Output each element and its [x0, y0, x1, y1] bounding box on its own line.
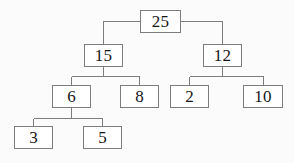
tree-node-6[interactable]: 6	[52, 85, 91, 108]
tree-node-label: 15	[95, 47, 112, 64]
edge-25-15	[104, 22, 141, 45]
tree-node-label: 10	[254, 88, 271, 105]
tree-node-2[interactable]: 2	[170, 85, 209, 108]
tree-node-label: 3	[29, 129, 38, 146]
tree-node-10[interactable]: 10	[243, 85, 283, 108]
tree-node-label: 5	[98, 129, 107, 146]
tree-node-label: 12	[214, 47, 231, 64]
tree-node-15[interactable]: 15	[84, 44, 123, 67]
edge-25-12	[181, 22, 223, 45]
tree-node-label: 2	[185, 88, 194, 105]
tree-node-label: 6	[67, 88, 76, 105]
tree-node-8[interactable]: 8	[120, 85, 159, 108]
tree-node-12[interactable]: 12	[203, 44, 242, 67]
tree-node-label: 8	[135, 88, 144, 105]
tree-node-3[interactable]: 3	[14, 126, 53, 149]
tree-node-label: 25	[152, 13, 169, 30]
tree-node-5[interactable]: 5	[83, 126, 122, 149]
tree-node-25[interactable]: 25	[140, 10, 181, 33]
binary-tree-diagram: 25 15 12 6 8 2 10 3 5	[0, 0, 294, 163]
